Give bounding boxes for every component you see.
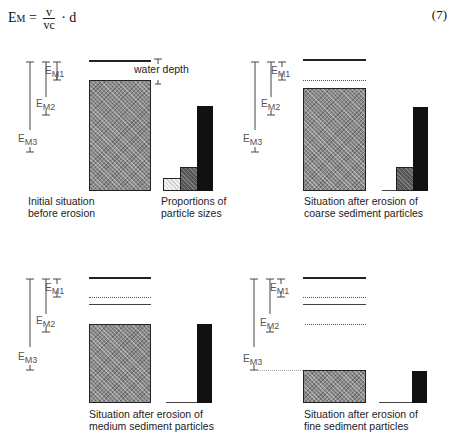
equation-denominator: vc	[43, 19, 54, 32]
erosion-scale-bars	[230, 55, 310, 175]
water-surface-line	[303, 277, 366, 279]
bed-after-coarse-line	[303, 304, 366, 305]
bar-medium	[180, 167, 198, 191]
bar-coarse-medium-empty	[379, 402, 413, 403]
bar-coarse-empty	[382, 190, 396, 191]
original-bed-level-line	[303, 297, 366, 298]
caption-medium: Situation after erosion ofmedium sedimen…	[89, 408, 214, 432]
caption-fine: Situation after erosion offine sediment …	[304, 408, 418, 432]
panel-medium: EM1 EM2 EM3 Situation after erosion ofme…	[0, 265, 230, 447]
panel-initial: EM1 EM2 EM3 water depth Initial situatio…	[0, 55, 230, 220]
equation: EM = v vc · d	[8, 6, 76, 32]
equation-lhs-subscript: M	[17, 13, 26, 24]
panel-coarse: EM1 EM2 EM3 Situation after erosion ofco…	[230, 55, 459, 220]
label-em1: EM1	[271, 65, 290, 76]
label-em3: EM3	[243, 353, 262, 364]
bar-fine	[197, 106, 213, 191]
label-em2: EM2	[261, 98, 280, 109]
equation-lhs: E	[8, 10, 17, 25]
sediment-block	[303, 370, 366, 403]
bed-after-medium-line	[305, 324, 366, 325]
bar-fine	[413, 107, 428, 191]
label-em1: EM1	[45, 65, 64, 76]
label-em3: EM3	[18, 133, 37, 144]
bar-medium	[396, 167, 414, 191]
label-em3: EM3	[243, 133, 262, 144]
bed-after-coarse-line	[89, 304, 151, 305]
water-depth-label: water depth	[134, 63, 189, 75]
label-em2: EM2	[36, 98, 55, 109]
original-bed-level-line	[89, 297, 151, 298]
equation-fraction: v vc	[43, 6, 54, 32]
water-surface-line	[89, 60, 151, 62]
caption-proportions: Proportions ofparticle sizes	[161, 195, 226, 219]
caption-initial: Initial situationbefore erosion	[28, 195, 95, 219]
em3-guide-line	[255, 370, 303, 371]
equation-rhs: · d	[61, 10, 76, 25]
equation-number: (7)	[432, 7, 447, 23]
label-em2: EM2	[260, 317, 279, 328]
bar-fine	[197, 324, 212, 403]
original-bed-level-line	[303, 80, 366, 81]
bar-coarse	[163, 178, 181, 191]
label-em2: EM2	[36, 315, 55, 326]
water-surface-line	[89, 277, 151, 279]
sediment-block	[303, 88, 366, 191]
label-em1: EM1	[45, 282, 64, 293]
water-surface-line	[303, 59, 366, 61]
bar-fine	[412, 371, 427, 403]
sediment-block	[89, 80, 151, 191]
sediment-block	[89, 324, 151, 403]
panel-fine: EM1 EM2 EM3 Situation after erosion offi…	[230, 265, 459, 447]
label-em3: EM3	[18, 351, 37, 362]
label-em1: EM1	[270, 282, 289, 293]
bar-coarse-medium-empty	[166, 402, 198, 403]
caption-coarse: Situation after erosion ofcoarse sedimen…	[304, 195, 423, 219]
